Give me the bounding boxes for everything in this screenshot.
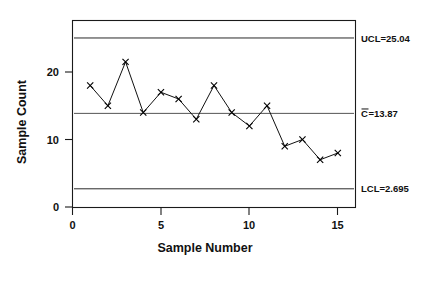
x-tick-label-15: 15 <box>331 219 343 231</box>
center-label-value: =13.87 <box>369 108 398 119</box>
y-axis-title: Sample Count <box>15 79 29 164</box>
center-line-label: C =13.87 <box>361 108 398 119</box>
ucl-label: UCL=25.04 <box>361 33 411 44</box>
y-tick-label-0: 0 <box>53 201 59 213</box>
center-label-symbol: C <box>361 108 368 119</box>
x-tick-label-5: 5 <box>158 219 164 231</box>
x-tick-label-0: 0 <box>69 219 75 231</box>
x-axis-title: Sample Number <box>157 241 252 255</box>
y-tick-label-20: 20 <box>47 66 59 78</box>
control-chart-svg: 0 10 20 Sample Count 0 5 10 15 Sample Nu… <box>0 0 428 290</box>
y-tick-label-10: 10 <box>47 134 59 146</box>
control-chart: 0 10 20 Sample Count 0 5 10 15 Sample Nu… <box>0 0 428 290</box>
lcl-label: LCL=2.695 <box>361 183 410 194</box>
x-tick-label-10: 10 <box>243 219 255 231</box>
